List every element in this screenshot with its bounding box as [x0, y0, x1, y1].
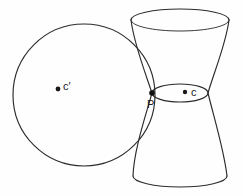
waist-ellipse — [152, 84, 208, 102]
figure-canvas — [0, 0, 243, 196]
circle-center-label: c′ — [63, 81, 71, 92]
top-rim-front-arc — [131, 20, 229, 31]
circle-center-dot — [56, 87, 61, 92]
geometry-figure: c′ c P — [0, 0, 243, 196]
bottom-rim-front-arc — [133, 176, 227, 187]
waist-center-label: c — [191, 87, 197, 98]
great-circle — [13, 24, 155, 166]
tangency-point-label: P — [147, 99, 154, 110]
top-rim-back-arc — [131, 9, 229, 20]
hyperboloid-right-silhouette — [208, 20, 229, 176]
tangency-point-dot — [149, 90, 155, 96]
waist-center-dot — [183, 90, 187, 94]
